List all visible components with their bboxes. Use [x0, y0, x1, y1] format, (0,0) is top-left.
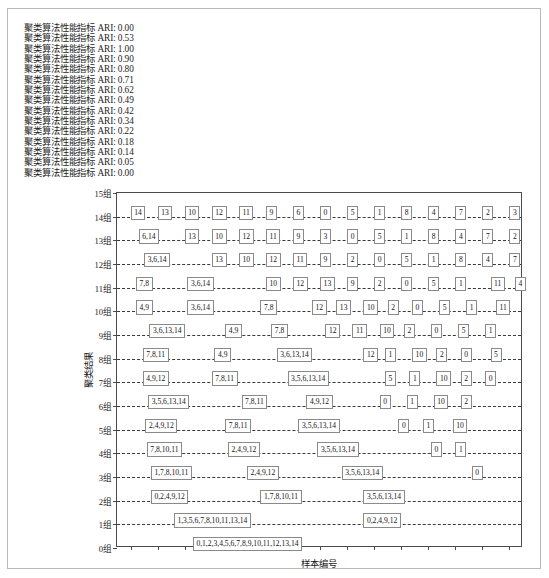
cluster-label-box: 12 [325, 324, 340, 339]
x-tick-mark [428, 546, 429, 550]
cluster-label-box: 2 [404, 324, 415, 339]
cluster-label-box: 1 [385, 348, 396, 363]
y-tick-mark [113, 548, 117, 549]
y-tick-label: 0组 [99, 542, 112, 554]
cluster-label-box: 7,8,11 [225, 419, 251, 434]
ari-log-line: 聚类算法性能指标 ARI: 0.22 [24, 126, 344, 136]
cluster-label-box: 11 [239, 206, 254, 221]
cluster-label-box: 1 [455, 442, 466, 457]
cluster-label-box: 10 [380, 324, 395, 339]
y-tick-label: 15组 [94, 187, 112, 199]
y-tick-label: 6组 [99, 400, 112, 412]
y-tick-mark [113, 477, 117, 478]
cluster-label-box: 7 [482, 229, 493, 244]
x-tick-mark [158, 546, 159, 550]
cluster-label-box: 7,8,11 [212, 371, 238, 386]
cluster-label-box: 5 [458, 324, 469, 339]
ari-log-line: 聚类算法性能指标 ARI: 0.14 [24, 147, 344, 157]
x-tick-mark [482, 546, 483, 550]
y-tick-mark [113, 430, 117, 431]
cluster-label-box: 0 [398, 419, 409, 434]
cluster-label-box: 2 [436, 348, 447, 363]
cluster-label-box: 3,5,6,13,14 [148, 395, 189, 410]
cluster-label-box: 0 [461, 348, 472, 363]
cluster-label-box: 7,8,11 [242, 395, 268, 410]
cluster-label-box: 5 [439, 300, 450, 315]
ari-log-line: 聚类算法性能指标 ARI: 0.42 [24, 106, 344, 116]
cluster-label-box: 3,6,14 [144, 253, 170, 268]
cluster-label-box: 4 [428, 206, 439, 221]
cluster-label-box: 8 [428, 229, 439, 244]
cluster-label-box: 0,2,4,9,12 [363, 513, 401, 528]
cluster-label-box: 1 [423, 419, 434, 434]
y-tick-label: 8组 [99, 353, 112, 365]
cluster-label-box: 13 [185, 229, 200, 244]
cluster-label-box: 4,9 [214, 348, 231, 363]
cluster-label-box: 8 [455, 253, 466, 268]
cluster-label-box: 4,9 [136, 300, 153, 315]
y-tick-mark [113, 524, 117, 525]
cluster-label-box: 5 [347, 206, 358, 221]
y-tick-mark [113, 193, 117, 194]
cluster-label-box: 1 [409, 371, 420, 386]
cluster-label-box: 0 [472, 466, 483, 481]
cluster-label-box: 11 [496, 300, 511, 315]
cluster-label-box: 3,5,6,13,14 [298, 419, 339, 434]
cluster-label-box: 1 [455, 277, 466, 292]
cluster-label-box: 2,4,9,12 [247, 466, 279, 481]
cluster-label-box: 0 [320, 206, 331, 221]
x-tick-mark [401, 546, 402, 550]
x-tick-mark [455, 546, 456, 550]
cluster-label-box: 3,5,6,13,14 [342, 466, 383, 481]
cluster-label-box: 12 [293, 277, 308, 292]
cluster-label-box: 2 [482, 206, 493, 221]
cluster-label-box: 0 [485, 371, 496, 386]
cluster-label-box: 4,9 [225, 324, 242, 339]
y-tick-mark [113, 359, 117, 360]
cluster-label-box: 7,8 [271, 324, 288, 339]
cluster-label-box: 1 [401, 229, 412, 244]
cluster-label-box: 11 [491, 277, 506, 292]
cluster-label-box: 4 [482, 253, 493, 268]
cluster-label-box: 0 [431, 442, 442, 457]
cluster-label-box: 3 [509, 206, 520, 221]
cluster-label-box: 12 [212, 206, 227, 221]
cluster-label-box: 0 [347, 229, 358, 244]
cluster-label-box: 4,9,12 [306, 395, 332, 410]
cluster-label-box: 1,3,5,6,7,8,10,11,13,14 [174, 513, 251, 528]
y-tick-label: 1组 [99, 518, 112, 530]
cluster-label-box: 13 [158, 206, 173, 221]
cluster-label-box: 1 [466, 300, 477, 315]
cluster-label-box: 10 [185, 206, 200, 221]
y-tick-label: 9组 [99, 329, 112, 341]
ari-log-line: 聚类算法性能指标 ARI: 0.34 [24, 116, 344, 126]
cluster-label-box: 11 [352, 324, 367, 339]
y-tick-mark [113, 240, 117, 241]
cluster-label-box: 5 [385, 371, 396, 386]
cluster-label-box: 7 [509, 253, 520, 268]
y-tick-mark [113, 264, 117, 265]
cluster-label-box: 7 [455, 206, 466, 221]
ari-log-line: 聚类算法性能指标 ARI: 1.00 [24, 44, 344, 54]
cluster-label-box: 7,8,11 [143, 348, 169, 363]
cluster-label-box: 9 [266, 206, 277, 221]
cluster-label-box: 2,4,9,12 [228, 442, 260, 457]
cluster-label-box: 11 [293, 253, 308, 268]
cluster-label-box: 12 [239, 229, 254, 244]
y-tick-label: 4组 [99, 447, 112, 459]
cluster-label-box: 5 [428, 277, 439, 292]
cluster-label-box: 9 [293, 229, 304, 244]
cluster-label-box: 4 [455, 229, 466, 244]
y-tick-label: 10组 [94, 305, 112, 317]
y-tick-mark [113, 406, 117, 407]
y-tick-label: 13组 [94, 234, 112, 246]
cluster-label-box: 2 [461, 395, 472, 410]
cluster-label-box: 3 [320, 229, 331, 244]
plot-axes: 0组1组2组3组4组5组6组7组8组9组10组11组12组13组14组15组 1… [116, 192, 522, 547]
cluster-label-box: 12 [363, 348, 378, 363]
cluster-label-box: 6 [293, 206, 304, 221]
cluster-label-box: 1 [428, 253, 439, 268]
cluster-label-box: 3,6,14 [187, 277, 213, 292]
cluster-label-box: 1 [407, 395, 418, 410]
cluster-label-box: 3,6,13,14 [277, 348, 313, 363]
